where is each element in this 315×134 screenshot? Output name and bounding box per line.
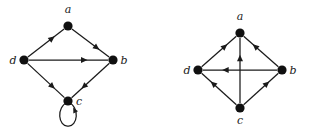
left-digraph: adbc: [0, 0, 155, 134]
arrowhead-d-to-b: [81, 57, 88, 63]
edge-b-to-c: [72, 63, 110, 97]
arrowhead-a-to-b: [92, 43, 99, 49]
vertex-label-b: b: [289, 64, 296, 77]
edge-a-to-b: [72, 29, 109, 57]
edge-d-to-c: [28, 63, 65, 97]
vertex-d: [19, 55, 28, 64]
arrowhead-d-to-a: [48, 36, 55, 42]
self-loop-c-self-loop: [60, 102, 77, 126]
edge-d-to-a: [202, 36, 237, 67]
vertex-label-a: a: [237, 10, 244, 23]
vertex-b: [277, 65, 286, 74]
vertex-label-c: c: [237, 114, 243, 127]
vertex-label-d: d: [183, 64, 190, 77]
right-edges: [202, 36, 279, 104]
vertex-label-b: b: [120, 54, 127, 67]
left-labels: adbc: [9, 3, 127, 108]
figure-two-digraphs: adbc adbc: [0, 0, 315, 134]
left-vertices: [19, 21, 117, 105]
right-digraph: adbc: [155, 0, 315, 134]
arrowhead-b-to-d: [222, 67, 229, 73]
left-edges: [28, 29, 110, 98]
vertex-a: [63, 21, 72, 30]
edge-c-to-b: [244, 73, 279, 104]
vertex-b: [108, 55, 117, 64]
vertex-d: [193, 65, 202, 74]
vertex-label-a: a: [65, 3, 72, 16]
vertex-label-c: c: [76, 95, 82, 108]
edge-b-to-a: [244, 36, 279, 67]
arrowhead-c-to-a: [237, 55, 243, 62]
vertex-c: [235, 103, 244, 112]
edge-d-to-a: [28, 29, 64, 57]
edge-c-to-d: [202, 73, 237, 104]
vertex-a: [235, 28, 244, 37]
vertex-c: [63, 96, 72, 105]
vertex-label-d: d: [9, 54, 16, 67]
